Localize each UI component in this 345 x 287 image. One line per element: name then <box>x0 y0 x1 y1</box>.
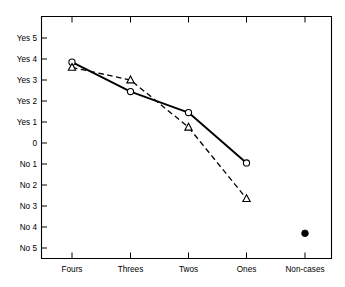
series-line-solid-circles <box>72 62 247 163</box>
y-tick-label: Yes 4 <box>17 55 38 64</box>
plot-frame <box>42 17 332 259</box>
data-point-circle <box>127 88 133 94</box>
y-tick-label: No 1 <box>20 160 38 169</box>
y-tick-label: Yes 5 <box>17 34 38 43</box>
chart-container: Yes 5Yes 4Yes 3Yes 2Yes 10No 1No 2No 3No… <box>0 0 345 287</box>
y-tick-label: Yes 1 <box>17 118 38 127</box>
data-point-triangle <box>243 195 250 202</box>
x-tick-label: Ones <box>237 265 257 274</box>
line-chart: Yes 5Yes 4Yes 3Yes 2Yes 10No 1No 2No 3No… <box>0 0 345 287</box>
x-tick-label: Fours <box>62 265 83 274</box>
data-point-filled-dot <box>302 230 309 237</box>
y-tick-label: No 5 <box>20 244 38 253</box>
series-line-dashed-triangles <box>72 67 247 198</box>
data-point-triangle <box>185 123 192 130</box>
y-tick-label: 0 <box>32 139 37 148</box>
y-tick-label: Yes 3 <box>17 76 38 85</box>
y-tick-label: Yes 2 <box>17 97 38 106</box>
y-tick-label: No 2 <box>20 181 38 190</box>
x-tick-label: Non-cases <box>285 265 324 274</box>
data-point-circle <box>243 160 249 166</box>
y-tick-label: No 4 <box>20 223 38 232</box>
y-tick-label: No 3 <box>20 202 38 211</box>
x-tick-label: Twos <box>179 265 198 274</box>
data-point-circle <box>185 109 191 115</box>
x-axis-ticks: FoursThreesTwosOnesNon-cases <box>62 17 325 275</box>
y-axis-ticks: Yes 5Yes 4Yes 3Yes 2Yes 10No 1No 2No 3No… <box>17 34 47 253</box>
x-tick-label: Threes <box>118 265 143 274</box>
data-series-layer <box>68 59 308 237</box>
